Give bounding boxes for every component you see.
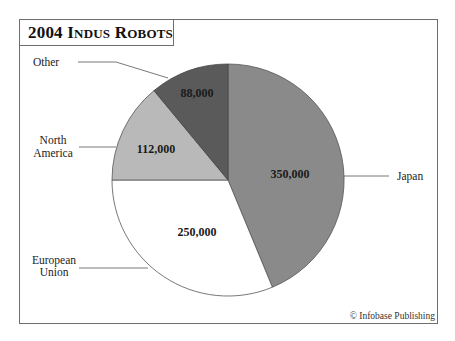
label-japan: Japan (397, 170, 423, 183)
chart-title: 2004 INDUS ROBOTS (28, 23, 173, 43)
value-north-america: 112,000 (137, 142, 175, 156)
value-japan: 350,000 (271, 167, 310, 181)
chart-title-box: 2004 INDUS ROBOTS (19, 19, 174, 46)
label-other: Other (33, 56, 59, 68)
label-north-america-line1: North (40, 134, 67, 146)
pie-chart: Japan Other North America European Union… (0, 0, 455, 341)
leader-line-other (78, 62, 168, 78)
label-european-union-line2: Union (40, 266, 69, 278)
credit-text: © Infobase Publishing (350, 311, 435, 321)
value-other: 88,000 (181, 86, 214, 100)
label-north-america-line2: America (33, 147, 73, 159)
value-european-union: 250,000 (178, 225, 217, 239)
